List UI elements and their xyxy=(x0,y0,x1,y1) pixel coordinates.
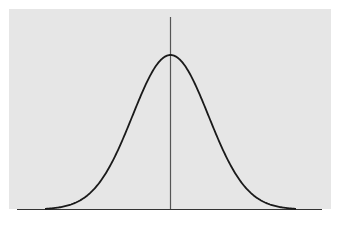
bell-curve-diagram xyxy=(0,0,340,226)
